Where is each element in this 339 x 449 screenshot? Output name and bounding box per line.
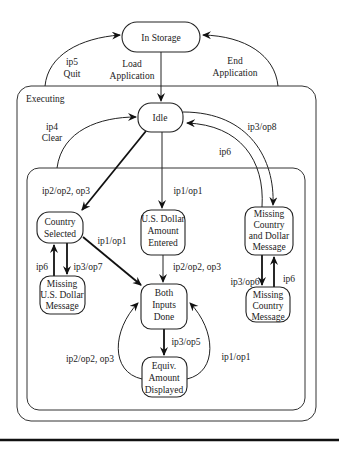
svg-text:Message: Message xyxy=(45,301,78,311)
edge-idle-to-country xyxy=(82,131,146,210)
svg-text:Missing: Missing xyxy=(253,290,284,300)
label-ip1-usd: ip1/op1 xyxy=(173,186,202,196)
label-ip1-both: ip1/op1 xyxy=(97,236,126,246)
edge-clear xyxy=(57,117,136,168)
label-ip6-missing: ip6 xyxy=(283,274,295,284)
svg-text:Amount: Amount xyxy=(147,226,179,236)
label-ip3-op7: ip3/op7 xyxy=(73,262,102,272)
label-ip2-country: ip2/op2, op3 xyxy=(42,186,90,196)
svg-text:Both: Both xyxy=(155,288,174,298)
executing-label: Executing xyxy=(26,94,65,104)
label-ip3-op5: ip3/op5 xyxy=(171,337,200,347)
label-loop-left: ip2/op2, op3 xyxy=(66,354,114,364)
state-missing-country-and-dollar: Missing Country and Dollar Message xyxy=(245,207,293,255)
label-loop-right: ip1/op1 xyxy=(221,352,250,362)
label-ip3-op8: ip3/op8 xyxy=(247,122,276,132)
svg-text:Inputs: Inputs xyxy=(152,300,176,310)
label-ip2-both: ip2/op2, op3 xyxy=(173,262,221,272)
svg-text:Missing: Missing xyxy=(47,279,78,289)
state-usd-entered: U.S. Dollar Amount Entered xyxy=(141,210,186,255)
svg-text:Done: Done xyxy=(154,312,175,322)
svg-text:In Storage: In Storage xyxy=(141,33,180,43)
svg-text:Entered: Entered xyxy=(148,238,178,248)
svg-text:Country: Country xyxy=(253,220,284,230)
svg-text:Selected: Selected xyxy=(44,229,76,239)
label-end-1: End xyxy=(227,56,243,66)
state-in-storage: In Storage xyxy=(122,22,200,52)
state-missing-country: Missing Country Message xyxy=(246,287,290,322)
state-equiv-amount-displayed: Equiv. Amount Displayed xyxy=(142,357,187,397)
svg-text:Displayed: Displayed xyxy=(145,385,184,395)
svg-text:Equiv.: Equiv. xyxy=(152,361,176,371)
state-both-inputs-done: Both Inputs Done xyxy=(141,284,187,329)
label-quit-1: ip5 xyxy=(66,57,78,67)
edge-equiv-loop-left xyxy=(118,303,142,379)
label-load-1: Load xyxy=(122,59,142,69)
svg-text:and Dollar: and Dollar xyxy=(249,231,290,241)
label-quit-2: Quit xyxy=(64,69,81,79)
svg-text:Country: Country xyxy=(252,301,283,311)
label-ip6-country: ip6 xyxy=(36,262,48,272)
label-load-2: Application xyxy=(110,71,155,81)
svg-text:Message: Message xyxy=(252,242,285,252)
svg-text:Amount: Amount xyxy=(148,373,180,383)
label-ip3-op6: ip3/op6 xyxy=(230,277,259,287)
svg-text:Idle: Idle xyxy=(153,113,168,123)
label-clear-2: Clear xyxy=(42,133,63,143)
svg-text:U.S. Dollar: U.S. Dollar xyxy=(40,290,84,300)
svg-text:Message: Message xyxy=(251,312,284,322)
label-ip6-idle: ip6 xyxy=(219,147,231,157)
state-country-selected: Country Selected xyxy=(37,212,83,243)
label-clear-1: ip4 xyxy=(46,122,58,132)
state-diagram: Executing In Storage Idle Country Select… xyxy=(0,0,339,449)
label-end-2: Application xyxy=(213,68,258,78)
state-missing-usd: Missing U.S. Dollar Message xyxy=(40,276,85,314)
svg-text:Missing: Missing xyxy=(254,209,285,219)
state-idle: Idle xyxy=(138,103,183,132)
svg-text:U.S. Dollar: U.S. Dollar xyxy=(141,214,185,224)
svg-text:Country: Country xyxy=(44,217,75,227)
